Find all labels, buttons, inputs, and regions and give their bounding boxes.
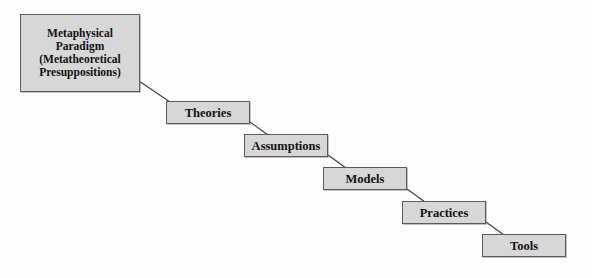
node-label: Practices [417, 206, 472, 220]
node-metaphysical-paradigm[interactable]: Metaphysical Paradigm (Metatheoretical P… [20, 14, 140, 92]
node-theories[interactable]: Theories [166, 101, 250, 124]
node-label: Assumptions [249, 139, 324, 153]
node-label: Metaphysical Paradigm (Metatheoretical P… [36, 27, 124, 79]
node-models[interactable]: Models [323, 167, 407, 190]
node-label: Tools [507, 239, 541, 253]
node-practices[interactable]: Practices [402, 201, 486, 224]
node-tools[interactable]: Tools [482, 234, 566, 257]
diagram-canvas: Metaphysical Paradigm (Metatheoretical P… [0, 0, 592, 278]
node-label: Theories [182, 106, 235, 120]
connector-paradigm-theories [139, 81, 170, 102]
node-assumptions[interactable]: Assumptions [244, 134, 328, 157]
node-label: Models [343, 172, 388, 186]
